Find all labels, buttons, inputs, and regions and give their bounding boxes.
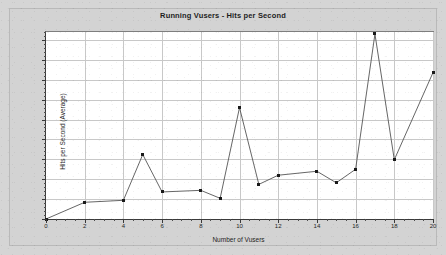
- x-tick-minor: [298, 219, 299, 221]
- y-tick-mark: [42, 179, 46, 180]
- x-tick-minor: [423, 219, 424, 221]
- data-point: [199, 189, 202, 192]
- plot-area: 051015202530354045 02468101214161820 Hit…: [45, 31, 434, 220]
- x-tick-minor: [172, 219, 173, 221]
- x-tick-minor: [75, 219, 76, 221]
- y-tick-mark: [42, 199, 46, 200]
- y-tick-minor: [44, 84, 46, 85]
- x-tick-minor: [414, 219, 415, 221]
- data-point: [354, 168, 357, 171]
- x-tick-minor: [346, 219, 347, 221]
- y-tick-minor: [44, 44, 46, 45]
- data-point: [83, 201, 86, 204]
- y-tick-mark: [42, 120, 46, 121]
- y-tick-minor: [44, 112, 46, 113]
- x-tick-label: 4: [113, 223, 133, 229]
- y-tick-minor: [44, 88, 46, 89]
- y-tick-minor: [44, 195, 46, 196]
- y-tick-minor: [44, 76, 46, 77]
- data-line: [46, 32, 433, 219]
- x-tick-minor: [114, 219, 115, 221]
- x-tick-minor: [133, 219, 134, 221]
- y-tick-mark: [42, 40, 46, 41]
- y-tick-minor: [44, 167, 46, 168]
- x-tick-minor: [65, 219, 66, 221]
- data-point: [432, 71, 435, 74]
- y-tick-minor: [44, 147, 46, 148]
- x-tick-label: 16: [346, 223, 366, 229]
- x-tick-label: 2: [75, 223, 95, 229]
- x-tick-minor: [94, 219, 95, 221]
- x-tick-minor: [210, 219, 211, 221]
- x-tick-minor: [307, 219, 308, 221]
- x-tick-label: 20: [423, 223, 443, 229]
- x-tick-minor: [230, 219, 231, 221]
- x-axis-title: Number of Vusers: [45, 236, 432, 243]
- y-axis-title: Hits per Second (Average): [59, 72, 66, 192]
- data-point: [122, 199, 125, 202]
- y-tick-mark: [42, 159, 46, 160]
- y-tick-minor: [44, 108, 46, 109]
- data-point: [238, 106, 241, 109]
- y-tick-minor: [44, 175, 46, 176]
- y-tick-minor: [44, 32, 46, 33]
- x-tick-minor: [336, 219, 337, 221]
- data-point: [335, 181, 338, 184]
- y-tick-minor: [44, 127, 46, 128]
- chart-screenshot: Running Vusers - Hits per Second 0510152…: [0, 0, 446, 255]
- y-tick-minor: [44, 191, 46, 192]
- data-point: [315, 170, 318, 173]
- y-tick-minor: [44, 187, 46, 188]
- chart-title: Running Vusers - Hits per Second: [0, 11, 446, 20]
- x-tick-minor: [375, 219, 376, 221]
- plot-inner: 051015202530354045 02468101214161820: [46, 32, 433, 219]
- data-point: [161, 190, 164, 193]
- x-tick-label: 14: [307, 223, 327, 229]
- x-tick-minor: [365, 219, 366, 221]
- x-tick-minor: [249, 219, 250, 221]
- x-tick-label: 12: [268, 223, 288, 229]
- x-tick-label: 18: [384, 223, 404, 229]
- y-tick-minor: [44, 52, 46, 53]
- y-tick-mark: [42, 80, 46, 81]
- x-tick-minor: [56, 219, 57, 221]
- x-tick-minor: [152, 219, 153, 221]
- x-tick-minor: [104, 219, 105, 221]
- x-tick-label: 0: [36, 223, 56, 229]
- y-tick-minor: [44, 163, 46, 164]
- x-tick-label: 6: [152, 223, 172, 229]
- y-tick-minor: [44, 215, 46, 216]
- x-tick-minor: [288, 219, 289, 221]
- y-tick-minor: [44, 183, 46, 184]
- y-tick-minor: [44, 211, 46, 212]
- data-point: [219, 197, 222, 200]
- y-tick-minor: [44, 135, 46, 136]
- x-tick-minor: [143, 219, 144, 221]
- x-tick-label: 10: [230, 223, 250, 229]
- y-tick-minor: [44, 96, 46, 97]
- x-tick-minor: [259, 219, 260, 221]
- y-tick-minor: [44, 151, 46, 152]
- data-point: [141, 153, 144, 156]
- x-tick-minor: [269, 219, 270, 221]
- y-tick-mark: [42, 60, 46, 61]
- y-tick-mark: [42, 139, 46, 140]
- y-tick-minor: [44, 131, 46, 132]
- y-tick-minor: [44, 92, 46, 93]
- y-tick-minor: [44, 143, 46, 144]
- data-point: [393, 158, 396, 161]
- x-tick-minor: [220, 219, 221, 221]
- x-tick-label: 8: [191, 223, 211, 229]
- y-tick-minor: [44, 36, 46, 37]
- y-tick-minor: [44, 171, 46, 172]
- y-tick-minor: [44, 124, 46, 125]
- y-tick-minor: [44, 116, 46, 117]
- x-tick-minor: [181, 219, 182, 221]
- x-tick-minor: [191, 219, 192, 221]
- y-tick-minor: [44, 64, 46, 65]
- y-tick-mark: [42, 100, 46, 101]
- x-tick-minor: [385, 219, 386, 221]
- data-point: [373, 32, 376, 35]
- data-point: [277, 174, 280, 177]
- y-tick-minor: [44, 72, 46, 73]
